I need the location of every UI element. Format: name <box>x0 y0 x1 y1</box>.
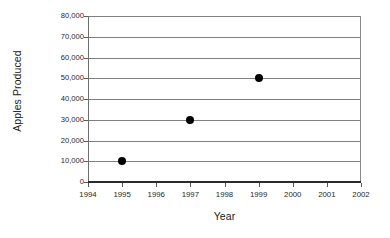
y-axis-title: Apples Produced <box>10 0 24 182</box>
gridline <box>88 78 361 79</box>
plot-right-edge <box>360 16 361 182</box>
y-axis-tick-label: 30,000 <box>38 116 84 124</box>
plot-area <box>88 16 361 182</box>
y-axis-tick-label: 0 <box>38 178 84 186</box>
x-axis-tick-mark <box>327 183 328 187</box>
gridline <box>88 58 361 59</box>
gridline <box>88 161 361 162</box>
y-axis-tick-label: 20,000 <box>38 137 84 145</box>
y-axis-line <box>88 16 89 183</box>
y-axis-tick-labels: 80,00070,00060,00050,00040,00030,00020,0… <box>34 0 84 238</box>
x-axis-tick-mark <box>190 183 191 187</box>
x-axis-tick-mark <box>361 183 362 187</box>
data-point <box>186 116 194 124</box>
x-axis-tick-mark <box>225 183 226 187</box>
x-axis-title: Year <box>88 210 361 222</box>
gridline <box>88 16 361 17</box>
x-axis-tick-label: 2002 <box>341 190 381 200</box>
y-axis-tick-label: 10,000 <box>38 157 84 165</box>
gridline <box>88 99 361 100</box>
y-axis-tick-label: 60,000 <box>38 54 84 62</box>
data-point <box>255 74 263 82</box>
x-axis-tick-mark <box>88 183 89 187</box>
y-axis-tick-label: 50,000 <box>38 74 84 82</box>
x-axis-tick-mark <box>122 183 123 187</box>
y-axis-tick-label: 80,000 <box>38 12 84 20</box>
y-axis-tick-label: 70,000 <box>38 33 84 41</box>
x-axis-tick-mark <box>156 183 157 187</box>
chart-figure: Apples Produced 80,00070,00060,00050,000… <box>0 0 390 238</box>
y-axis-tick-label: 40,000 <box>38 95 84 103</box>
gridline <box>88 141 361 142</box>
gridline <box>88 37 361 38</box>
x-axis-tick-mark <box>259 183 260 187</box>
gridline <box>88 120 361 121</box>
x-axis-tick-mark <box>293 183 294 187</box>
data-point <box>118 157 126 165</box>
